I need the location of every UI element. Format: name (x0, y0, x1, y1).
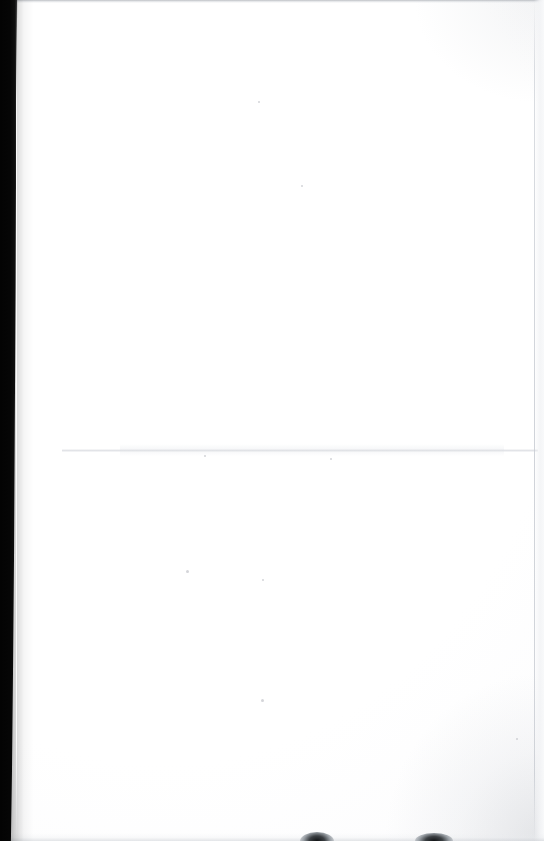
gutter-paper-edge-highlight (16, 0, 17, 841)
scanned-page (0, 0, 544, 841)
paper-surface (0, 0, 544, 841)
